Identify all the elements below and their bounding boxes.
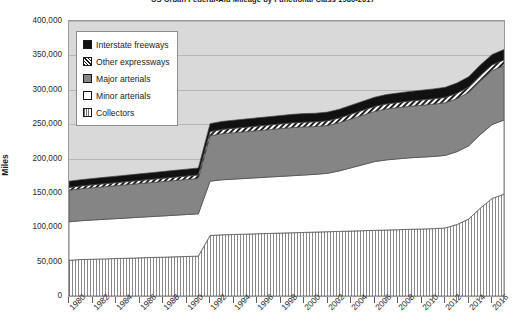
- legend-item[interactable]: Other expressways: [83, 53, 170, 70]
- x-axis-tick: [338, 297, 339, 301]
- legend-item[interactable]: Major arterials: [83, 70, 170, 87]
- y-axis-tick-label: 250,000: [32, 119, 62, 128]
- legend-item[interactable]: Interstate freeways: [83, 36, 170, 53]
- y-axis-tick-label: 300,000: [32, 84, 62, 93]
- legend-swatch-major-arterials: [83, 74, 92, 83]
- x-axis-tick: [127, 297, 128, 301]
- legend-swatch-interstate-freeways: [83, 40, 92, 49]
- legend-item[interactable]: Collectors: [83, 104, 170, 121]
- legend-label: Major arterials: [96, 74, 150, 84]
- y-axis-tick-label: 100,000: [32, 222, 62, 231]
- x-axis-tick: [221, 297, 222, 301]
- x-axis-tick: [479, 297, 480, 301]
- legend-item[interactable]: Minor arterials: [83, 87, 170, 104]
- x-axis-tick: [268, 297, 269, 301]
- x-axis-tick: [385, 297, 386, 301]
- y-axis-tick-label: 150,000: [32, 187, 62, 196]
- x-axis-tick: [103, 297, 104, 301]
- y-axis-tick-label: 350,000: [32, 50, 62, 59]
- x-axis-tick: [150, 297, 151, 301]
- x-axis-tick: [244, 297, 245, 301]
- legend-label: Collectors: [96, 108, 134, 118]
- x-axis-tick: [362, 297, 363, 301]
- legend-swatch-minor-arterials: [83, 91, 92, 100]
- chart-root: US Urban Federal-Aid Mileage by Function…: [0, 0, 526, 332]
- legend-label: Other expressways: [96, 57, 170, 67]
- x-axis-tick: [409, 297, 410, 301]
- x-axis: 1980198219841986198819901992199419961998…: [68, 297, 505, 332]
- y-axis-tick-label: 50,000: [37, 256, 62, 265]
- x-axis-tick: [197, 297, 198, 301]
- legend-label: Minor arterials: [96, 91, 150, 101]
- x-axis-tick: [432, 297, 433, 301]
- y-axis-tick-label: 400,000: [32, 16, 62, 25]
- y-axis-title: Miles: [0, 154, 10, 175]
- x-axis-tick: [503, 297, 504, 301]
- x-axis-tick: [80, 297, 81, 301]
- x-axis-tick: [456, 297, 457, 301]
- x-axis-tick: [174, 297, 175, 301]
- y-axis-tick-label: 200,000: [32, 153, 62, 162]
- x-axis-tick: [315, 297, 316, 301]
- chart-title: US Urban Federal-Aid Mileage by Function…: [0, 0, 526, 4]
- y-axis-tick-label: 0: [57, 291, 62, 300]
- chart-legend: Interstate freeways Other expressways Ma…: [76, 31, 178, 126]
- legend-swatch-other-expressways: [83, 57, 92, 66]
- x-axis-tick: [291, 297, 292, 301]
- legend-swatch-collectors: [83, 108, 92, 117]
- y-axis: Miles 050,000100,000150,000200,000250,00…: [0, 20, 66, 297]
- legend-label: Interstate freeways: [96, 40, 169, 50]
